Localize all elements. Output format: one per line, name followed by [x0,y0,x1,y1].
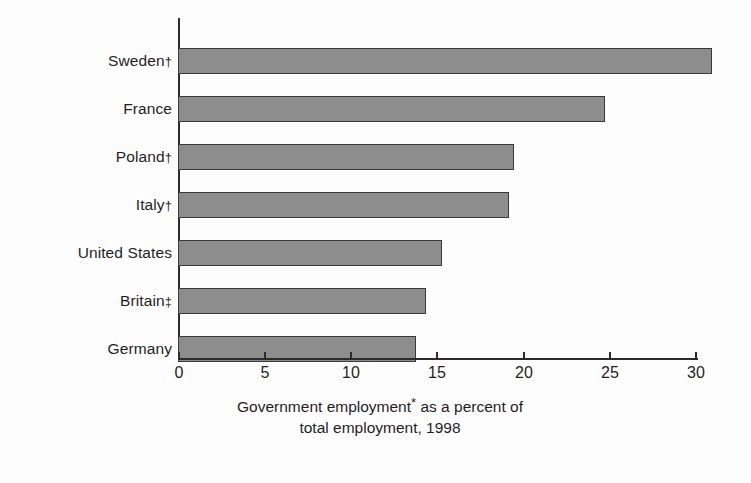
dagger-marker: † [165,54,172,69]
category-label-united-states: United States [4,240,172,267]
category-label-text: Britain [120,292,165,309]
category-label-text: Poland [116,148,165,165]
category-label-text: United States [78,244,172,261]
tick-mark [695,352,697,360]
bar-italy [178,192,509,218]
bar-chart-figure: Sweden† France Poland† Italy† United Sta… [0,0,751,483]
tick-label-25: 25 [601,364,619,382]
category-label-text: Germany [108,340,172,357]
tick-mark [178,352,180,360]
caption-text-before: Government employment [237,398,411,415]
bar-poland [178,144,514,170]
dagger-marker: † [165,198,172,213]
dagger-marker: † [165,150,172,165]
category-label-text: Sweden [108,52,165,69]
tick-label-0: 0 [175,364,184,382]
tick-label-5: 5 [261,364,270,382]
tick-label-20: 20 [515,364,533,382]
category-label-germany: Germany [4,336,172,363]
bar-britain [178,288,426,314]
chart-caption: Government employment* as a percent of t… [120,396,640,438]
plot-area [178,18,718,358]
category-label-text: Italy [136,196,165,213]
tick-label-15: 15 [428,364,446,382]
caption-line-1: Government employment* as a percent of [120,396,640,417]
tick-label-30: 30 [687,364,705,382]
bar-united-states [178,240,442,266]
category-label-sweden: Sweden† [4,48,172,75]
category-label-britain: Britain‡ [4,288,172,315]
tick-mark [523,352,525,360]
category-label-france: France [4,96,172,123]
tick-label-10: 10 [342,364,360,382]
category-axis-labels: Sweden† France Poland† Italy† United Sta… [0,18,172,358]
category-label-poland: Poland† [4,144,172,171]
bar-sweden [178,48,712,74]
x-axis-line [178,358,698,360]
bar-france [178,96,605,122]
dagger-marker: ‡ [165,294,172,309]
tick-mark [609,352,611,360]
category-label-italy: Italy† [4,192,172,219]
caption-text-after: as a percent of [416,398,523,415]
tick-mark [264,352,266,360]
tick-mark [436,352,438,360]
tick-mark [350,352,352,360]
category-label-text: France [123,100,172,117]
caption-line-2: total employment, 1998 [120,417,640,438]
